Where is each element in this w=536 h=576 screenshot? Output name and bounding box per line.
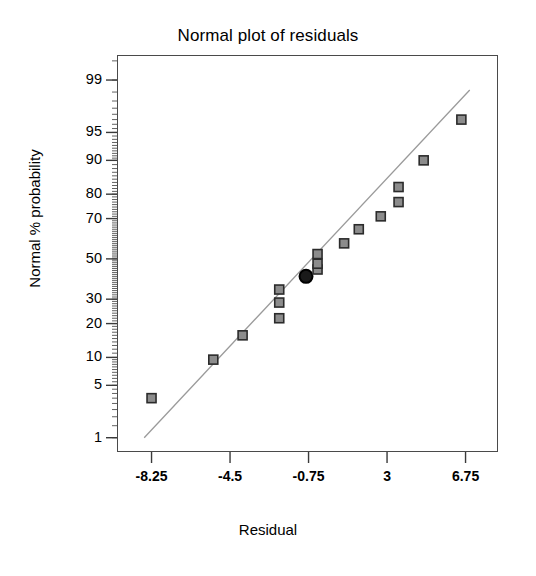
- x-tick-label: -8.25: [112, 469, 192, 483]
- data-point: [238, 331, 247, 340]
- y-tick-label: 30: [56, 291, 102, 306]
- y-tick-label: 1: [56, 430, 102, 445]
- data-point: [147, 394, 156, 403]
- data-point: [275, 314, 284, 323]
- y-axis-minor-ticks: [112, 61, 117, 438]
- x-tick-label: 6.75: [426, 469, 506, 483]
- y-tick-label: 50: [56, 251, 102, 266]
- y-tick-label: 5: [56, 377, 102, 392]
- y-axis-major-ticks: [106, 80, 117, 438]
- reference-line: [144, 90, 470, 438]
- data-point: [340, 239, 349, 248]
- data-point: [457, 115, 466, 124]
- y-tick-label: 95: [56, 124, 102, 139]
- data-points: [147, 115, 466, 403]
- normal-probability-plot-figure: Normal plot of residuals Normal % probab…: [0, 0, 536, 576]
- y-tick-label: 90: [56, 152, 102, 167]
- y-tick-label: 80: [56, 186, 102, 201]
- y-tick-label: 70: [56, 211, 102, 226]
- data-point: [354, 225, 363, 234]
- data-point: [275, 285, 284, 294]
- data-point: [209, 355, 218, 364]
- data-point: [394, 183, 403, 192]
- x-tick-label: -4.5: [190, 469, 270, 483]
- data-point: [313, 250, 322, 259]
- data-point: [419, 156, 428, 165]
- x-tick-label: 3: [347, 469, 427, 483]
- data-point: [376, 212, 385, 221]
- y-tick-label: 20: [56, 316, 102, 331]
- data-point-highlighted: [300, 270, 313, 283]
- x-axis-major-ticks: [152, 452, 466, 463]
- x-tick-label: -0.75: [269, 469, 349, 483]
- y-tick-label: 99: [56, 72, 102, 87]
- data-point: [275, 298, 284, 307]
- y-tick-label: 10: [56, 349, 102, 364]
- data-point: [394, 198, 403, 207]
- data-point: [313, 259, 322, 268]
